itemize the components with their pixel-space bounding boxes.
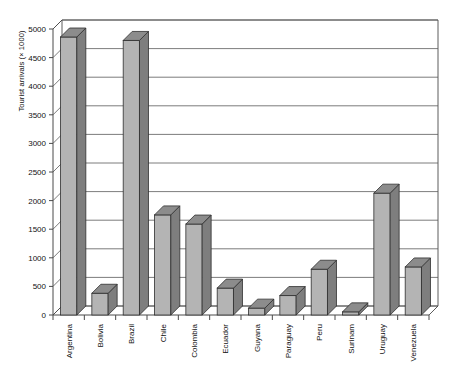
x-category-label: Bolivia bbox=[96, 323, 105, 347]
y-tick-label: 1000 bbox=[28, 254, 46, 263]
bar-venezuela bbox=[405, 258, 430, 315]
bar-bolivia bbox=[92, 284, 117, 315]
y-tick-label: 1500 bbox=[28, 225, 46, 234]
bar-uruguay bbox=[374, 184, 399, 315]
y-tick-label: 4000 bbox=[28, 82, 46, 91]
x-category-label: Uruguay bbox=[378, 324, 387, 354]
plot-area: 0500100015002000250030003500400045005000… bbox=[0, 0, 452, 376]
bar-colombia bbox=[186, 215, 211, 315]
y-tick-label: 0 bbox=[42, 311, 47, 320]
y-tick-label: 4500 bbox=[28, 54, 46, 63]
x-category-label: Surinam bbox=[347, 324, 356, 354]
bar-surinam bbox=[343, 303, 368, 315]
x-category-label: Venezuela bbox=[409, 323, 418, 361]
x-category-label: Brazil bbox=[127, 324, 136, 344]
y-tick-label: 500 bbox=[33, 282, 47, 291]
bar-peru bbox=[311, 260, 336, 315]
x-category-label: Paraguay bbox=[284, 324, 293, 358]
x-category-label: Chile bbox=[159, 323, 168, 342]
bar-chile bbox=[155, 206, 180, 315]
y-tick-label: 2500 bbox=[28, 168, 46, 177]
bar-guyana bbox=[249, 299, 274, 315]
bar-argentina bbox=[61, 28, 86, 315]
bar-paraguay bbox=[280, 287, 305, 315]
bar-brazil bbox=[123, 31, 148, 315]
x-category-label: Guyana bbox=[253, 323, 262, 352]
bar-chart: Tourist arrivals (× 1000) 05001000150020… bbox=[0, 0, 452, 376]
bar-ecuador bbox=[217, 279, 242, 315]
y-tick-label: 5000 bbox=[28, 25, 46, 34]
x-category-label: Peru bbox=[315, 324, 324, 341]
x-category-label: Colombia bbox=[190, 323, 199, 357]
y-tick-label: 3500 bbox=[28, 111, 46, 120]
x-category-label: Ecuador bbox=[221, 324, 230, 354]
y-tick-label: 3000 bbox=[28, 139, 46, 148]
x-category-label: Argentina bbox=[65, 323, 74, 358]
y-tick-label: 2000 bbox=[28, 197, 46, 206]
